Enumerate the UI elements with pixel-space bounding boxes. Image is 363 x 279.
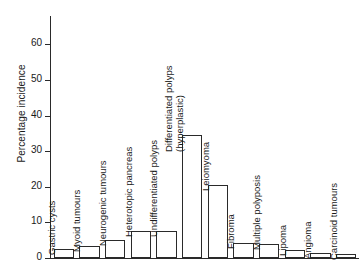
bar-category-label: Leiomyoma xyxy=(201,142,211,191)
bar-category-label: Myoid tumours xyxy=(72,189,82,251)
y-axis-tick-label: 0 xyxy=(2,252,42,262)
y-axis-tick-label: 50 xyxy=(2,74,42,84)
bar-category-label: Carcinoid tumours xyxy=(329,183,339,260)
bar-category-label-line: Differentiated polyps xyxy=(164,66,175,152)
y-axis-tick-mark xyxy=(45,80,50,81)
bar xyxy=(156,231,177,258)
bar-category-label: Gastric cysts xyxy=(47,201,57,255)
bar xyxy=(79,246,100,258)
bar-category-label: Undifferentiated polyps xyxy=(149,140,159,237)
bar-category-label-line: (hyperplastic) xyxy=(174,66,185,152)
y-axis-tick-mark xyxy=(45,44,50,45)
y-axis-tick-mark xyxy=(45,187,50,188)
bar-category-label: Differentiated polyps(hyperplastic) xyxy=(164,66,185,152)
bar-chart: Percentage incidence 6050403020100 Gastr… xyxy=(0,0,363,279)
y-axis-tick-label: 20 xyxy=(2,181,42,191)
y-axis-tick-label: 40 xyxy=(2,110,42,120)
y-axis-tick-label: 60 xyxy=(2,38,42,48)
bar-category-label: Angioma xyxy=(303,222,313,260)
bar-category-label: Heterotopic pancreas xyxy=(124,147,134,237)
bar-category-label: Multiple polyposis xyxy=(252,175,262,250)
bar-category-label: Neurogenic tumours xyxy=(98,161,108,247)
bar-category-label: Fibroma xyxy=(226,214,236,249)
y-axis-tick-label: 30 xyxy=(2,145,42,155)
bar-category-label: Lipoma xyxy=(278,225,288,256)
y-axis-tick-mark xyxy=(45,116,50,117)
y-axis-tick-mark xyxy=(45,151,50,152)
y-axis-tick-mark xyxy=(45,258,50,259)
y-axis-tick-label: 10 xyxy=(2,216,42,226)
plot-area: Gastric cystsMyoid tumoursNeurogenic tum… xyxy=(51,16,359,258)
